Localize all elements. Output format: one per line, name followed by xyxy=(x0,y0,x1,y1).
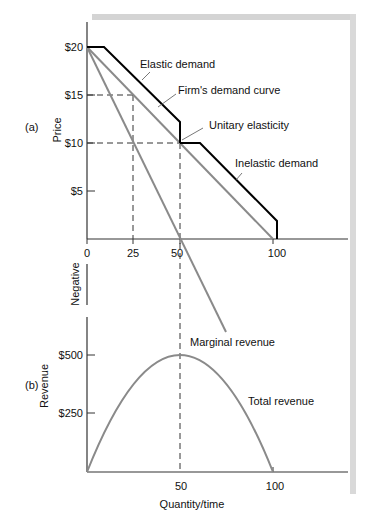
y-tick-5: $5 xyxy=(71,185,83,197)
x-tick-100-bottom: 100 xyxy=(266,480,284,492)
label-inelastic-demand: Inelastic demand xyxy=(235,157,318,169)
x-tick-25: 25 xyxy=(127,247,139,259)
y-tick-500: $500 xyxy=(59,349,83,361)
label-firms-demand-curve: Firm's demand curve xyxy=(178,84,280,96)
panel-b-label: (b) xyxy=(25,379,38,391)
panel-a-label: (a) xyxy=(25,121,38,133)
y-tick-20: $20 xyxy=(65,41,83,53)
x-tick-100: 100 xyxy=(268,247,286,259)
x-tick-50: 50 xyxy=(171,247,183,259)
price-axis-label: Price xyxy=(51,117,63,142)
label-elastic-demand: Elastic demand xyxy=(140,58,215,70)
x-tick-50-bottom: 50 xyxy=(175,480,187,492)
label-marginal-revenue: Marginal revenue xyxy=(190,336,275,348)
revenue-axis-label: Revenue xyxy=(38,364,50,408)
y-tick-15: $15 xyxy=(65,89,83,101)
panel-b: Negative $500 $250 50 100 Marginal reven… xyxy=(25,262,348,510)
panel-frame-right xyxy=(350,14,356,494)
y-tick-10: $10 xyxy=(65,137,83,149)
quantity-time-label: Quantity/time xyxy=(160,498,225,510)
x-tick-0: 0 xyxy=(84,247,90,259)
reference-dashes xyxy=(87,95,180,472)
negative-label: Negative xyxy=(69,262,81,305)
economics-chart: $20 $15 $10 $5 0 25 50 100 xyxy=(0,0,369,518)
y-tick-250: $250 xyxy=(59,407,83,419)
label-unitary-elasticity: Unitary elasticity xyxy=(209,119,290,131)
label-total-revenue: Total revenue xyxy=(248,395,314,407)
panel-frame-top xyxy=(92,14,356,20)
